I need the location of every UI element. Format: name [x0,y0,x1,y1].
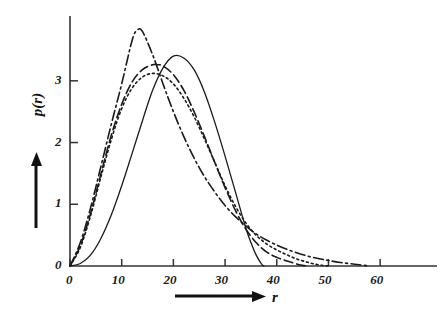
curve-dash-dot-tall [70,29,370,266]
curve-dotted [70,73,328,266]
up-arrow-icon [31,152,42,228]
right-arrow-icon [175,291,266,302]
y-tick-label: 2 [55,134,62,150]
curves-group [70,29,370,266]
y-tick-label: 0 [55,257,62,273]
chart-figure: p(r) r 01020304050600123 [0,0,445,315]
x-tick-label: 40 [267,272,280,288]
plot-canvas [0,0,445,315]
x-tick-label: 0 [66,272,73,288]
y-tick-label: 1 [55,195,62,211]
x-axis-label: r [272,289,278,306]
y-tick-marks [70,81,78,204]
x-tick-label: 10 [112,272,125,288]
axis-group [70,16,437,266]
x-tick-label: 30 [215,272,228,288]
x-tick-label: 50 [318,272,331,288]
y-tick-label: 3 [55,72,62,88]
y-axis-label: p(r) [29,93,46,116]
curve-dashed [70,64,308,266]
x-tick-label: 60 [370,272,383,288]
curve-solid [70,55,264,266]
x-tick-marks [70,259,380,266]
x-tick-label: 20 [163,272,176,288]
